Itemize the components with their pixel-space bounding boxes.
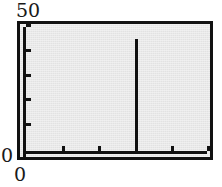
y-axis-max-label: 50 — [16, 1, 40, 20]
y-axis-tick — [26, 123, 31, 126]
y-axis-tick — [26, 49, 31, 52]
x-axis-tick — [62, 146, 65, 151]
y-axis-tick — [26, 24, 31, 27]
y-axis-tick — [26, 98, 31, 101]
impulse-bar — [135, 39, 138, 151]
plot-paper-texture — [20, 24, 210, 157]
plot-frame — [17, 21, 213, 160]
x-axis-line — [23, 151, 207, 154]
x-axis-tick — [98, 146, 101, 151]
y-axis-min-label: 0 — [1, 146, 13, 165]
x-axis-tick — [171, 146, 174, 151]
y-axis-line — [23, 27, 26, 157]
y-axis-tick — [26, 74, 31, 77]
plot-area — [20, 24, 210, 157]
x-axis-tick — [207, 146, 210, 151]
x-axis-min-label: 0 — [14, 165, 26, 184]
figure-panel: 50 0 0 — [0, 0, 222, 187]
